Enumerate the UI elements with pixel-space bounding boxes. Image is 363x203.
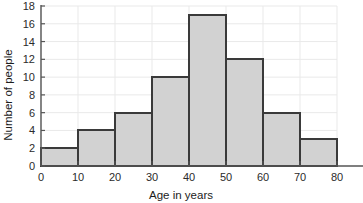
- histogram-bar: [263, 113, 300, 166]
- y-tick-label: 0: [29, 160, 35, 172]
- y-tick-label: 16: [23, 18, 35, 30]
- y-tick-label: 2: [29, 142, 35, 154]
- chart-canvas: 01020304050607080 024681012141618 Age in…: [0, 0, 363, 203]
- histogram-bar: [152, 77, 189, 166]
- x-tick-label: 60: [257, 171, 269, 183]
- y-axis-title: Number of people: [2, 49, 14, 140]
- bar-rect: [78, 130, 115, 166]
- histogram-bar: [226, 59, 263, 166]
- bar-rect: [152, 77, 189, 166]
- x-tick-label: 30: [146, 171, 158, 183]
- x-tick-label: 50: [220, 171, 232, 183]
- histogram-bar: [189, 15, 226, 166]
- bar-rect: [115, 113, 152, 166]
- histogram-chart: 01020304050607080 024681012141618 Age in…: [0, 0, 363, 203]
- bar-rect: [300, 139, 337, 166]
- y-tick-label: 8: [29, 89, 35, 101]
- x-tick-label: 80: [331, 171, 343, 183]
- y-tick-label: 4: [29, 124, 35, 136]
- x-tick-labels: 01020304050607080: [38, 171, 343, 183]
- x-tick-label: 70: [294, 171, 306, 183]
- y-tick-label: 12: [23, 53, 35, 65]
- histogram-bar: [78, 130, 115, 166]
- x-tick-label: 0: [38, 171, 44, 183]
- bar-rect: [41, 148, 78, 166]
- x-tick-label: 20: [109, 171, 121, 183]
- x-tick-label: 40: [183, 171, 195, 183]
- bar-rect: [263, 113, 300, 166]
- bar-rect: [189, 15, 226, 166]
- histogram-bar: [115, 113, 152, 166]
- y-tick-label: 10: [23, 71, 35, 83]
- histogram-bar: [300, 139, 337, 166]
- x-tick-label: 10: [72, 171, 84, 183]
- bar-rect: [226, 59, 263, 166]
- y-tick-label: 18: [23, 0, 35, 12]
- x-axis-title: Age in years: [149, 189, 213, 201]
- y-tick-label: 6: [29, 107, 35, 119]
- y-tick-label: 14: [23, 36, 35, 48]
- histogram-bar: [41, 148, 78, 166]
